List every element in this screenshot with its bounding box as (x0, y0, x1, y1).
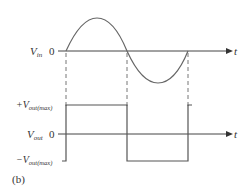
vin-label: Vin (30, 45, 43, 59)
vout-axis-t-label: t (234, 128, 238, 140)
figure-caption: (b) (12, 173, 25, 186)
vin-zero-label: 0 (49, 45, 55, 57)
vout-axis-arrow-icon (226, 131, 233, 137)
vin-axis-t-label: t (234, 45, 238, 57)
comparator-waveform-diagram: t Vin 0 t Vout 0 +Vout(max) −Vout(max) (… (0, 0, 240, 188)
vout-label: Vout (27, 128, 44, 142)
vin-axis-arrow-icon (226, 48, 233, 54)
neg-vout-max-label: −Vout(max) (16, 154, 52, 167)
vout-zero-label: 0 (49, 128, 55, 140)
pos-vout-max-label: +Vout(max) (16, 99, 52, 112)
vout-square-wave (62, 105, 192, 161)
